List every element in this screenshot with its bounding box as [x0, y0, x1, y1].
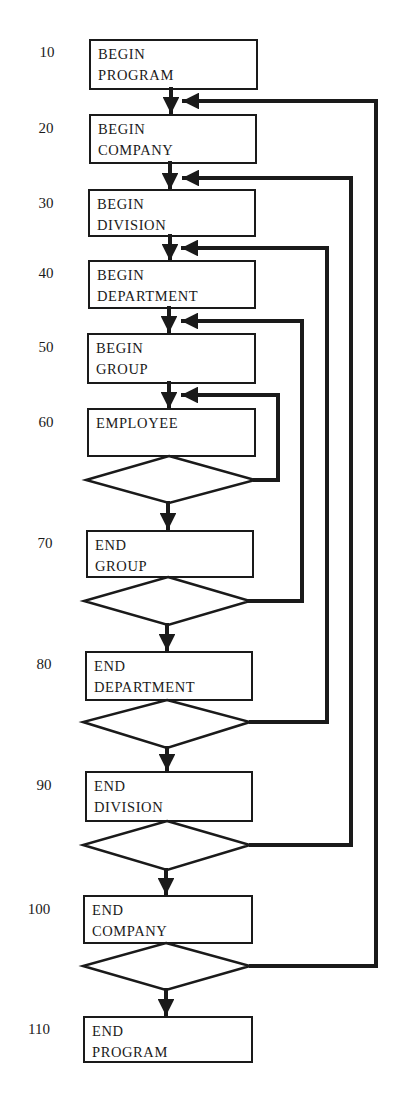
- step-end-program: END PROGRAM: [83, 1016, 253, 1063]
- step-end-division: END DIVISION: [85, 771, 253, 822]
- step-label-line1: END: [92, 900, 251, 921]
- step-label-line2: PROGRAM: [92, 1042, 251, 1063]
- step-begin-group: BEGIN GROUP: [87, 333, 256, 384]
- step-begin-department: BEGIN DEPARTMENT: [88, 260, 256, 309]
- step-label-line2: DEPARTMENT: [94, 677, 251, 698]
- step-label-line1: EMPLOYEE: [96, 413, 254, 434]
- line-number-40: 40: [26, 266, 66, 281]
- step-label-line1: BEGIN: [96, 338, 254, 359]
- step-label-line2: DIVISION: [97, 215, 254, 236]
- step-label-line1: BEGIN: [97, 194, 254, 215]
- line-number-90: 90: [24, 778, 64, 793]
- line-number-60: 60: [26, 415, 66, 430]
- step-label-line1: END: [94, 656, 251, 677]
- step-label-line1: END: [95, 535, 252, 556]
- step-label-line1: END: [92, 1021, 251, 1042]
- step-label-line2: COMPANY: [92, 921, 251, 942]
- line-number-80: 80: [24, 657, 64, 672]
- step-label-line2: COMPANY: [98, 140, 255, 161]
- step-label-line2: GROUP: [96, 359, 254, 380]
- line-number-70: 70: [25, 536, 65, 551]
- line-number-10: 10: [27, 45, 67, 60]
- step-label-line2: PROGRAM: [98, 65, 256, 86]
- line-number-20: 20: [26, 121, 66, 136]
- step-begin-division: BEGIN DIVISION: [88, 189, 256, 237]
- line-number-30: 30: [26, 196, 66, 211]
- step-end-department: END DEPARTMENT: [85, 651, 253, 701]
- step-label-line2: DEPARTMENT: [97, 286, 254, 307]
- line-number-110: 110: [19, 1022, 59, 1037]
- step-end-company: END COMPANY: [83, 895, 253, 944]
- step-employee: EMPLOYEE: [87, 408, 256, 457]
- step-end-group: END GROUP: [86, 530, 254, 578]
- step-label-line1: BEGIN: [98, 44, 256, 65]
- step-begin-company: BEGIN COMPANY: [89, 114, 257, 164]
- line-number-50: 50: [26, 340, 66, 355]
- step-label-line1: BEGIN: [98, 119, 255, 140]
- step-label-line1: BEGIN: [97, 265, 254, 286]
- step-label-line2: DIVISION: [94, 797, 251, 818]
- step-begin-program: BEGIN PROGRAM: [89, 39, 258, 90]
- line-number-100: 100: [19, 902, 59, 917]
- step-label-line2: GROUP: [95, 556, 252, 577]
- step-label-line1: END: [94, 776, 251, 797]
